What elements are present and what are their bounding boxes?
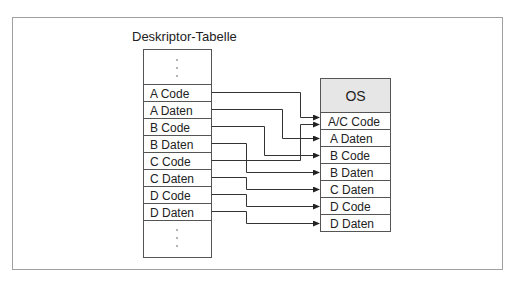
descriptor-table: A Code A Daten B Code B Daten C Code C D…: [144, 50, 212, 258]
right-row-a-daten: A Daten: [330, 132, 373, 146]
os-header-label: OS: [345, 88, 365, 104]
arrow-b-code: [212, 127, 320, 156]
arrow-d-daten: [212, 212, 320, 224]
left-row-b-daten: B Daten: [150, 138, 193, 152]
right-row-c-daten: C Daten: [330, 183, 374, 197]
diagram-frame: [13, 18, 503, 270]
left-row-a-daten: A Daten: [150, 104, 193, 118]
arrow-c-daten: [212, 178, 320, 190]
descriptor-table-diagram: Deskriptor-Tabelle A Code A Daten B Code…: [0, 0, 517, 281]
arrow-b-daten: [212, 144, 320, 173]
os-table: OS A/C Code A Daten B Code B Daten C Dat…: [321, 79, 391, 232]
descriptor-table-title: Deskriptor-Tabelle: [132, 29, 237, 44]
left-row-a-code: A Code: [150, 87, 190, 101]
arrow-d-code: [212, 195, 320, 207]
left-row-b-code: B Code: [150, 121, 190, 135]
right-row-d-daten: D Daten: [330, 217, 374, 231]
connectors: [212, 93, 320, 224]
left-row-d-daten: D Daten: [150, 206, 194, 220]
right-row-b-code: B Code: [330, 149, 370, 163]
right-row-d-code: D Code: [330, 200, 371, 214]
left-row-c-daten: C Daten: [150, 172, 194, 186]
right-row-b-daten: B Daten: [330, 166, 373, 180]
left-row-d-code: D Code: [150, 189, 191, 203]
arrow-a-code: [212, 93, 320, 118]
left-row-c-code: C Code: [150, 155, 191, 169]
right-row-ac-code: A/C Code: [328, 115, 380, 129]
